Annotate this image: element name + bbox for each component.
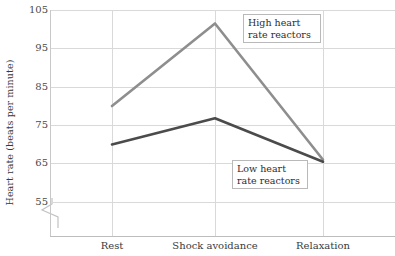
annotation-low-line1: Low heart [237,163,303,175]
series-line-low-heart-rate-reactors [112,118,323,161]
y-tick-95: 95 [14,43,48,53]
plot-area [50,10,395,237]
x-tick-shock-avoidance: Shock avoidance [172,240,257,251]
annotation-high-line2: rate reactors [248,29,316,41]
series-line-high-heart-rate-reactors [112,23,323,159]
x-tick-rest: Rest [101,240,124,251]
annotation-low-heart-rate-reactors: Low heart rate reactors [232,160,308,189]
y-tick-75: 75 [14,120,48,130]
annotation-low-line2: rate reactors [237,175,303,187]
cropped-caption-sliver [0,0,395,3]
series-layer [50,10,395,237]
y-tick-85: 85 [14,82,48,92]
annotation-high-heart-rate-reactors: High heart rate reactors [243,14,321,43]
y-axis-title: Heart rate (beats per minute) [4,43,15,223]
y-tick-105: 105 [14,5,48,15]
heart-rate-line-chart: Heart rate (beats per minute) 105 95 85 … [0,0,395,256]
annotation-high-line1: High heart [248,17,316,29]
y-tick-65: 65 [14,158,48,168]
x-tick-relaxation: Relaxation [296,240,350,251]
